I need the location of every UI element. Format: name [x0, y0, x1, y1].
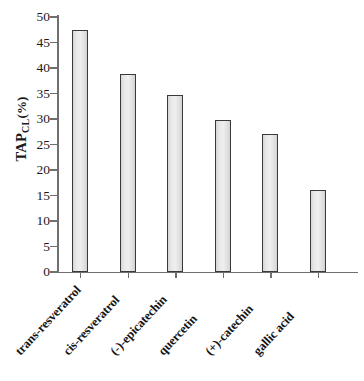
y-tick-mark	[50, 144, 57, 145]
y-tick-label: 35	[10, 87, 50, 101]
bars-layer	[57, 17, 358, 272]
y-tick-label: 5	[10, 240, 50, 254]
y-tick-label: 25	[10, 138, 50, 152]
y-tick-label: 10	[10, 214, 50, 228]
y-tick-mark	[50, 246, 57, 247]
bar-chart: TAPCL(%) 05101520253035404550 trans-resv…	[0, 0, 364, 381]
y-tick-mark	[50, 16, 57, 17]
y-tick-label: 20	[10, 163, 50, 177]
bar-trans-resveratrol	[72, 30, 88, 272]
y-tick-label: 40	[10, 61, 50, 75]
y-tick-mark	[50, 169, 57, 170]
y-tick-mark	[50, 220, 57, 221]
x-axis-label: quercetin	[155, 312, 200, 359]
bar--epicatechin	[167, 95, 183, 272]
x-axis-labels: trans-resveratrolcis-resveratrol(-)-epic…	[0, 272, 364, 381]
y-tick-mark	[50, 118, 57, 119]
y-tick-label: 50	[10, 10, 50, 24]
bar-cis-resveratrol	[120, 74, 136, 272]
y-tick-mark	[50, 195, 57, 196]
x-axis-label: gallic acid	[251, 310, 298, 359]
y-tick-mark	[50, 93, 57, 94]
bar-gallic-acid	[310, 190, 326, 272]
y-tick-label: 45	[10, 36, 50, 50]
y-tick-mark	[50, 42, 57, 43]
x-axis-label: (+)-catechin	[203, 302, 257, 359]
bar-quercetin	[215, 120, 231, 272]
y-tick-mark	[50, 67, 57, 68]
bar--catechin	[262, 134, 278, 272]
y-tick-label: 30	[10, 112, 50, 126]
y-tick-label: 15	[10, 189, 50, 203]
